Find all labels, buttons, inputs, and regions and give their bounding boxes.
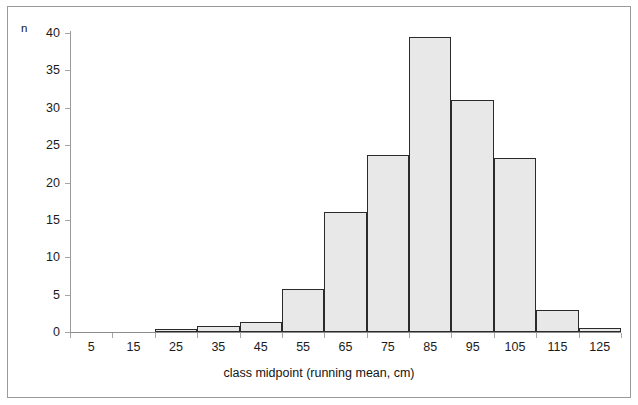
y-tick-label: 35 bbox=[16, 64, 60, 76]
x-tick-label: 15 bbox=[112, 341, 156, 354]
x-tick-mark bbox=[494, 333, 495, 338]
x-tick-label: 65 bbox=[324, 341, 368, 354]
histogram-bar bbox=[155, 329, 197, 332]
x-tick-label: 5 bbox=[69, 341, 113, 354]
x-tick-mark bbox=[324, 333, 325, 338]
y-tick-label-text: 30 bbox=[20, 102, 60, 115]
y-tick-label-text: 25 bbox=[20, 139, 60, 152]
y-tick-mark bbox=[65, 70, 70, 71]
x-tick-label: 115 bbox=[535, 341, 579, 354]
x-tick-mark bbox=[451, 333, 452, 338]
x-tick-label: 45 bbox=[239, 341, 283, 354]
x-tick-label: 35 bbox=[196, 341, 240, 354]
histogram-bar bbox=[282, 289, 324, 332]
x-tick-label: 55 bbox=[281, 341, 325, 354]
histogram-bar bbox=[240, 322, 282, 332]
histogram-bar bbox=[197, 326, 239, 332]
x-tick-mark bbox=[409, 333, 410, 338]
histogram-bar bbox=[409, 37, 451, 332]
histogram-figure: n 0510152025303540 515253545556575859510… bbox=[0, 0, 638, 405]
y-tick-label-text: 35 bbox=[20, 64, 60, 77]
y-tick-label-text: 0 bbox=[20, 326, 60, 339]
y-tick-label: 25 bbox=[16, 139, 60, 151]
y-tick-label: 5 bbox=[16, 289, 60, 301]
y-tick-mark bbox=[65, 108, 70, 109]
x-tick-mark bbox=[367, 333, 368, 338]
histogram-bar bbox=[367, 155, 409, 332]
histogram-bar bbox=[324, 212, 366, 332]
x-tick-mark bbox=[112, 333, 113, 338]
y-tick-label: 20 bbox=[16, 177, 60, 189]
y-tick-mark bbox=[65, 257, 70, 258]
y-tick-mark bbox=[65, 33, 70, 34]
y-tick-label: 40 bbox=[16, 27, 60, 39]
x-tick-mark bbox=[621, 333, 622, 338]
y-tick-mark bbox=[65, 220, 70, 221]
x-tick-mark bbox=[155, 333, 156, 338]
x-tick-mark bbox=[70, 333, 71, 338]
y-tick-mark bbox=[65, 145, 70, 146]
histogram-bar bbox=[494, 158, 536, 332]
y-axis-line bbox=[70, 31, 71, 334]
y-tick-label: 10 bbox=[16, 251, 60, 263]
x-axis-line bbox=[70, 332, 621, 333]
x-tick-mark bbox=[240, 333, 241, 338]
y-tick-label: 15 bbox=[16, 214, 60, 226]
histogram-bar bbox=[451, 100, 493, 332]
x-tick-mark bbox=[282, 333, 283, 338]
x-tick-mark bbox=[197, 333, 198, 338]
y-tick-label: 30 bbox=[16, 102, 60, 114]
y-tick-label-text: 40 bbox=[20, 27, 60, 40]
x-tick-label: 105 bbox=[493, 341, 537, 354]
x-tick-label: 125 bbox=[578, 341, 622, 354]
y-tick-mark bbox=[65, 183, 70, 184]
x-tick-mark bbox=[536, 333, 537, 338]
y-tick-mark bbox=[65, 295, 70, 296]
x-axis-title: class midpoint (running mean, cm) bbox=[0, 366, 638, 380]
y-tick-label-text: 20 bbox=[20, 177, 60, 190]
x-tick-label: 75 bbox=[366, 341, 410, 354]
x-tick-label: 85 bbox=[408, 341, 452, 354]
histogram-bar bbox=[536, 310, 578, 332]
x-tick-label: 25 bbox=[154, 341, 198, 354]
x-tick-mark bbox=[579, 333, 580, 338]
y-tick-label: 0 bbox=[16, 326, 60, 338]
y-tick-label-text: 5 bbox=[20, 289, 60, 302]
histogram-bar bbox=[579, 328, 621, 332]
figure-border bbox=[7, 6, 631, 398]
y-tick-label-text: 10 bbox=[20, 251, 60, 264]
x-tick-label: 95 bbox=[451, 341, 495, 354]
y-tick-label-text: 15 bbox=[20, 214, 60, 227]
